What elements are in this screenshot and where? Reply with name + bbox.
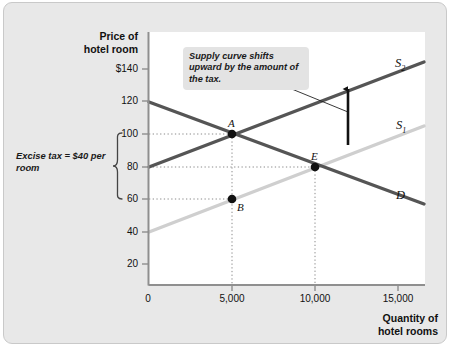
point-marker-b — [228, 195, 237, 204]
y-axis-title: Price of hotel room — [62, 30, 138, 55]
point-label-a: A — [228, 117, 235, 129]
figure-root: Price of hotel room $140 120 100 80 60 4… — [0, 0, 458, 353]
y-tick-label-60: 60 — [90, 193, 138, 204]
x-tick-label-0: 0 — [126, 293, 170, 304]
supply-shift-callout: Supply curve shifts upward by the amount… — [183, 47, 309, 90]
y-tick-label-20: 20 — [90, 258, 138, 269]
x-axis-title: Quantity of hotel rooms — [326, 312, 438, 337]
point-label-b: B — [237, 201, 244, 213]
curve-label-demand: D — [396, 188, 405, 203]
y-tick-label-140: $140 — [90, 63, 138, 74]
supply-curve-s1 — [149, 126, 424, 232]
point-marker-e — [311, 163, 320, 172]
curve-label-s2-sub: 2 — [401, 64, 405, 73]
y-tick-label-120: 120 — [90, 95, 138, 106]
point-label-e: E — [311, 150, 318, 162]
y-tick-label-40: 40 — [90, 226, 138, 237]
curve-label-s2: S2 — [395, 56, 405, 73]
x-tick-label-15000: 15,000 — [376, 293, 420, 304]
y-tick-label-100: 100 — [90, 128, 138, 139]
excise-tax-label: Excise tax = $40 per room — [16, 150, 112, 173]
point-marker-a — [228, 130, 237, 139]
curve-label-s1: S1 — [396, 118, 406, 135]
x-tick-label-5000: 5,000 — [210, 293, 254, 304]
curve-label-s1-sub: 1 — [402, 126, 406, 135]
x-tick-label-10000: 10,000 — [293, 293, 337, 304]
